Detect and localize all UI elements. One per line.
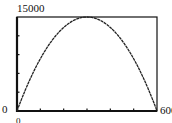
- data-curve: [17, 17, 157, 111]
- plot-area: [0, 0, 172, 123]
